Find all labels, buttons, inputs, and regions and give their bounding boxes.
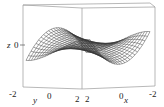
surface-plot: [0, 0, 164, 107]
surface-mesh: [26, 28, 150, 65]
z-tick-label: 0: [14, 41, 19, 50]
x-tick-neg: -2: [149, 90, 157, 99]
y-tick-pos: 2: [75, 95, 80, 104]
y-tick-neg: -2: [9, 90, 17, 99]
x-tick-pos: 2: [85, 95, 90, 104]
z-axis-label: z: [7, 41, 11, 50]
y-tick-zero: 0: [47, 92, 52, 101]
y-axis-label: y: [33, 96, 37, 105]
x-tick-zero: 0: [119, 92, 124, 101]
x-axis-label: x: [124, 96, 128, 105]
